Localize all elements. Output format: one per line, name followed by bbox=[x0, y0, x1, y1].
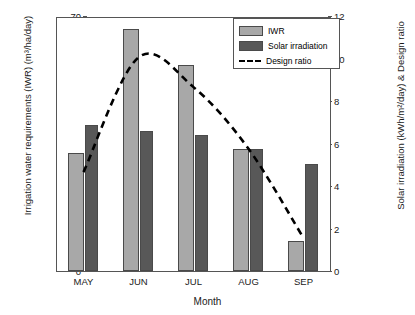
bar-solar-may bbox=[85, 125, 98, 271]
bar-iwr-jul bbox=[178, 65, 194, 271]
bar-iwr-may bbox=[68, 153, 84, 271]
y-tick-right-8: 8 bbox=[334, 96, 360, 107]
legend-swatch-iwr-icon bbox=[239, 26, 263, 36]
legend-item-design-ratio: Design ratio bbox=[239, 53, 334, 68]
y-tick-right-6: 6 bbox=[334, 139, 360, 150]
x-tick-may: MAY bbox=[54, 276, 114, 287]
legend-item-solar-irradiation: Solar irradiation bbox=[239, 38, 334, 53]
legend-item-iwr: IWR bbox=[239, 23, 334, 38]
bar-iwr-sep bbox=[288, 241, 304, 271]
legend-label-design-ratio: Design ratio bbox=[266, 56, 311, 66]
chart-container: Irrigation water requirements (IWR) (m³/… bbox=[0, 0, 415, 315]
bar-solar-jun bbox=[140, 131, 153, 271]
x-axis-title: Month bbox=[0, 296, 415, 307]
y-tick-right-4: 4 bbox=[334, 181, 360, 192]
x-tick-aug: AUG bbox=[219, 276, 279, 287]
legend-swatch-dashed-line-icon bbox=[239, 60, 261, 62]
y-tick-right-0: 0 bbox=[334, 266, 360, 277]
chart-legend: IWR Solar irradiation Design ratio bbox=[233, 18, 340, 69]
y-axis-right-title: Solar irradiation (kWh/m²/day) & Design … bbox=[395, 0, 406, 251]
x-tick-sep: SEP bbox=[274, 276, 334, 287]
bar-solar-sep bbox=[305, 164, 318, 271]
bar-solar-aug bbox=[250, 149, 263, 271]
legend-label-iwr: IWR bbox=[268, 26, 285, 36]
bar-solar-jul bbox=[195, 135, 208, 271]
x-tick-jul: JUL bbox=[164, 276, 224, 287]
x-tick-jun: JUN bbox=[109, 276, 169, 287]
bar-iwr-jun bbox=[123, 29, 139, 271]
y-axis-left-title: Irrigation water requirements (IWR) (m³/… bbox=[22, 0, 33, 251]
bar-iwr-aug bbox=[233, 149, 249, 271]
y-tick-right-2: 2 bbox=[334, 224, 360, 235]
legend-label-solar-irradiation: Solar irradiation bbox=[268, 41, 328, 51]
legend-swatch-solar-icon bbox=[239, 41, 263, 51]
